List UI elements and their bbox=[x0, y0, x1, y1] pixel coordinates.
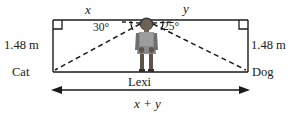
right-angle-marker-right bbox=[239, 20, 248, 29]
person-hand-right bbox=[149, 47, 154, 53]
label-side-y: y bbox=[183, 2, 189, 15]
person-torso-highlight bbox=[140, 32, 153, 46]
label-height-left: 1.48 m bbox=[4, 39, 39, 52]
label-dog: Dog bbox=[252, 66, 274, 79]
person-shoe-left bbox=[139, 69, 145, 72]
arrow-head-right bbox=[239, 86, 250, 94]
label-height-right: 1.48 m bbox=[251, 39, 286, 52]
person-leg-left bbox=[140, 54, 144, 71]
person-leg-right bbox=[149, 54, 153, 71]
label-lexi: Lexi bbox=[128, 76, 151, 89]
person-arm-left bbox=[135, 33, 139, 50]
person-arm-right bbox=[154, 33, 158, 50]
label-total-distance: x + y bbox=[134, 97, 161, 110]
label-cat: Cat bbox=[12, 66, 29, 79]
person-shoe-right bbox=[148, 69, 154, 72]
label-side-x: x bbox=[85, 3, 91, 16]
label-angle-right: 25° bbox=[163, 21, 179, 33]
trigonometry-diagram: x y 30° 25° 1.48 m 1.48 m Cat Dog Lexi x… bbox=[0, 0, 299, 113]
label-angle-left: 30° bbox=[93, 22, 109, 34]
right-angle-marker-left bbox=[53, 20, 62, 29]
person-hand-left bbox=[139, 47, 144, 53]
arrow-head-left bbox=[51, 86, 62, 94]
person-neck bbox=[144, 29, 149, 32]
